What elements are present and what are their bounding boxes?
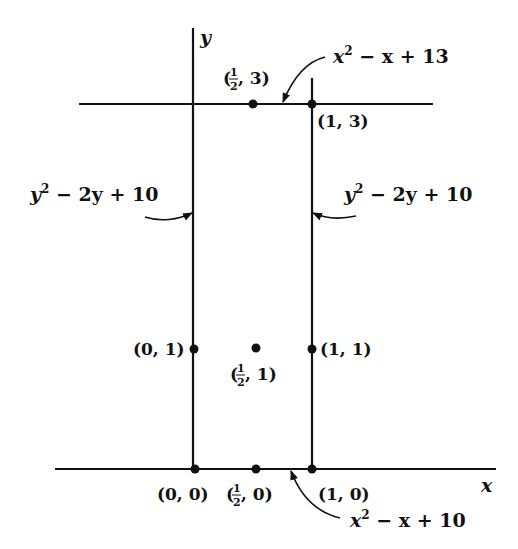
point-1-0 bbox=[308, 465, 317, 474]
svg-text:1: 1 bbox=[230, 66, 238, 79]
label-1-3: (1, 3) bbox=[317, 111, 369, 131]
label-half-0: ( 1 2 , 0) bbox=[226, 482, 273, 509]
svg-text:1: 1 bbox=[233, 482, 241, 495]
diagram-svg: y x x2 − x + 13 x2 − x + 10 y2 − 2y + 10… bbox=[0, 0, 518, 549]
point-0-1 bbox=[190, 345, 199, 354]
top-edge-label: x2 − x + 13 bbox=[332, 44, 449, 67]
point-half-1 bbox=[252, 344, 261, 353]
label-0-1: (0, 1) bbox=[133, 339, 185, 359]
y-axis-label: y bbox=[199, 26, 213, 48]
right-label-arrow bbox=[313, 213, 356, 218]
label-1-0: (1, 0) bbox=[318, 484, 370, 504]
left-label-arrow bbox=[145, 213, 192, 220]
svg-text:2: 2 bbox=[237, 376, 245, 389]
svg-text:, 3): , 3) bbox=[238, 68, 270, 88]
bottom-edge-label: x2 − x + 10 bbox=[349, 508, 466, 531]
svg-text:1: 1 bbox=[237, 362, 245, 375]
x-axis-label: x bbox=[480, 474, 493, 496]
label-1-1: (1, 1) bbox=[320, 339, 372, 359]
label-half-3: ( 1 2 , 3) bbox=[223, 66, 270, 93]
svg-text:, 1): , 1) bbox=[245, 364, 277, 384]
svg-text:, 0): , 0) bbox=[241, 484, 273, 504]
point-0-0 bbox=[191, 465, 200, 474]
diagram-canvas: y x x2 − x + 13 x2 − x + 10 y2 − 2y + 10… bbox=[0, 0, 518, 549]
point-half-0 bbox=[252, 465, 261, 474]
label-half-1: ( 1 2 , 1) bbox=[230, 362, 277, 389]
point-1-1 bbox=[308, 345, 317, 354]
left-edge-label: y2 − 2y + 10 bbox=[29, 182, 158, 205]
right-edge-label: y2 − 2y + 10 bbox=[343, 182, 472, 205]
svg-text:2: 2 bbox=[233, 496, 241, 509]
svg-text:2: 2 bbox=[230, 80, 238, 93]
top-label-arrow bbox=[283, 57, 325, 102]
label-0-0: (0, 0) bbox=[157, 484, 209, 504]
point-1-3 bbox=[308, 100, 317, 109]
point-half-3 bbox=[249, 100, 258, 109]
